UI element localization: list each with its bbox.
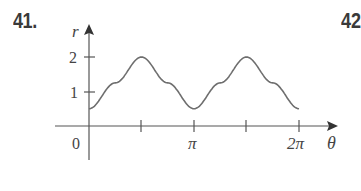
y-tick-label-2: 2	[69, 49, 77, 66]
x-tick-label-0: 0	[72, 135, 80, 152]
y-tick-label-1: 1	[70, 84, 78, 101]
x-tick-label-pi: π	[188, 134, 197, 153]
xlabel: θ	[327, 133, 336, 153]
x-tick-label-2pi: 2π	[287, 134, 305, 153]
ylabel: r	[72, 22, 79, 41]
r-theta-curve	[89, 57, 299, 109]
